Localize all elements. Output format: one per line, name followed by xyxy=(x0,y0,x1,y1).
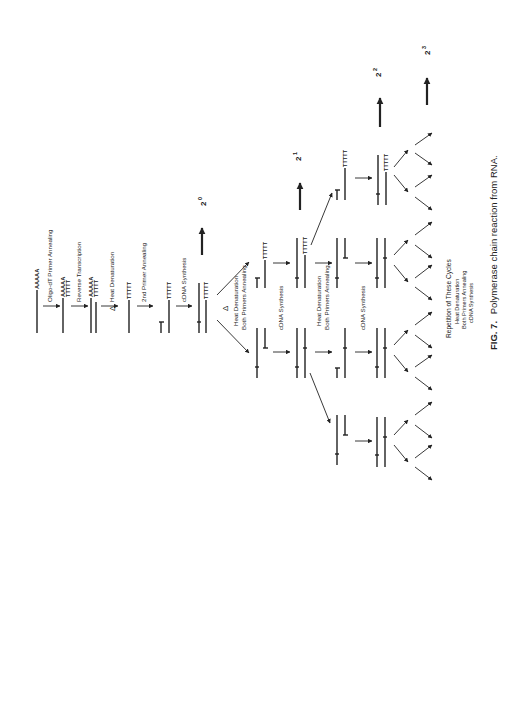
step-label: Oligo-dT Primer Annealing xyxy=(46,229,53,302)
power-label-0: 2 0 xyxy=(197,197,208,206)
pcr-diagram: AAAAA Oligo-dT Primer Annealing AAAAA TT… xyxy=(0,0,530,715)
svg-text:Repetition of These Cycles: Repetition of These Cycles xyxy=(445,259,453,338)
cycle2-bottom-ds xyxy=(375,417,387,467)
svg-text:2: 2 xyxy=(372,68,378,71)
svg-text:3: 3 xyxy=(421,46,427,49)
svg-text:TTTTT: TTTTT xyxy=(302,236,308,254)
cycle1-lower-annealed xyxy=(255,328,268,378)
svg-text:AAAAA: AAAAA xyxy=(34,269,40,289)
svg-text:Heat Denaturation: Heat Denaturation xyxy=(454,279,460,324)
svg-text:TTTTT: TTTTT xyxy=(65,279,71,297)
fanout-arrows xyxy=(394,133,432,480)
power-label-2: 2 2 xyxy=(372,68,383,77)
step-label: cDNA Synthesis xyxy=(277,286,284,330)
svg-text:cDNA Synthesis: cDNA Synthesis xyxy=(468,283,474,323)
step-label: Heat Denaturation xyxy=(108,251,115,302)
svg-text:Both Primers Annealing: Both Primers Annealing xyxy=(461,271,467,329)
svg-text:0: 0 xyxy=(197,197,203,200)
svg-text:TTTTT: TTTTT xyxy=(126,281,132,299)
branch-arrow-icon xyxy=(310,373,330,423)
second-primer-annealed: TTTTT xyxy=(159,281,172,333)
cycle2-upper-ds xyxy=(375,238,387,288)
svg-text:TTTTT: TTTTT xyxy=(166,281,172,299)
svg-text:2: 2 xyxy=(423,50,432,55)
cycle1-upper-denat xyxy=(335,238,348,288)
ds-cdna-0: TTTTT xyxy=(197,281,209,333)
rt-duplex: AAAAA TTTTT xyxy=(88,277,99,333)
svg-text:TTTTT: TTTTT xyxy=(342,149,348,167)
mrna-strand: AAAAA xyxy=(34,269,40,333)
cycle1-upper-annealed: TTTTT xyxy=(255,241,268,288)
cycle1-lower-ds xyxy=(295,328,307,378)
step-label: Heat Denaturation xyxy=(232,275,239,326)
delta-symbol: Δ xyxy=(221,305,230,311)
repetition-note: Repetition of These Cycles Heat Denatura… xyxy=(445,259,474,338)
step-label: Heat Denaturation xyxy=(315,275,322,326)
svg-text:FIG. 7. Polymerase chain: FIG. 7. Polymerase chain reaction from R… xyxy=(488,155,499,350)
branch-arrow-icon xyxy=(311,193,332,245)
step-label: Both Primers Annealing xyxy=(323,265,330,330)
delta-symbol: Δ xyxy=(108,305,117,311)
svg-text:1: 1 xyxy=(292,152,298,155)
svg-text:TTTTT: TTTTT xyxy=(203,281,209,299)
cycle2-bottom-annealed xyxy=(335,415,348,465)
svg-text:2: 2 xyxy=(199,201,208,206)
svg-text:TTTTT: TTTTT xyxy=(262,241,268,259)
cycle2-top-annealed: TTTTT xyxy=(335,149,348,200)
step-label: cDNA Synthesis xyxy=(180,258,187,302)
power-label-1: 2 1 xyxy=(292,152,303,161)
svg-text:2: 2 xyxy=(294,156,303,161)
step-label: Reverse Transcription xyxy=(75,241,82,302)
step-label: 2nd Primer Annealing xyxy=(140,242,147,302)
figure-caption: FIG. 7. Polymerase chain reaction from R… xyxy=(488,155,499,350)
cycle1-upper-ds: TTTTT xyxy=(295,236,308,288)
step-label: Both Primers Annealing xyxy=(240,265,247,330)
single-cdna: TTTTT xyxy=(126,281,132,333)
primer-annealed: AAAAA TTTTT xyxy=(60,277,71,333)
cycle1-lower-denat xyxy=(335,328,347,378)
svg-text:TTTTT: TTTTT xyxy=(93,279,99,297)
power-label-3: 2 3 xyxy=(421,46,432,55)
svg-text:TTTTT: TTTTT xyxy=(383,153,389,171)
cycle2-top-ds: TTTTT xyxy=(376,153,389,205)
step-label: cDNA Synthesis xyxy=(359,286,366,330)
cycle2-lower-ds xyxy=(375,328,387,378)
svg-text:2: 2 xyxy=(374,72,383,77)
